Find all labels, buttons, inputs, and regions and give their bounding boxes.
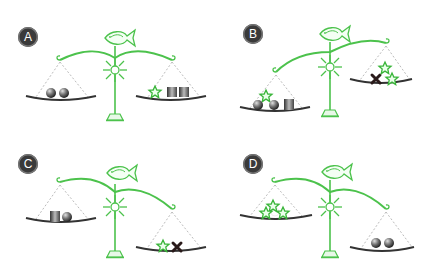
option-d[interactable]	[240, 164, 414, 258]
option-badge-d: D	[243, 154, 263, 174]
option-badge-c: C	[18, 154, 38, 174]
scales-illustration	[0, 0, 426, 276]
option-b[interactable]	[240, 26, 412, 117]
option-badge-b: B	[243, 24, 263, 44]
option-a[interactable]	[26, 30, 206, 121]
option-badge-a: A	[18, 27, 38, 47]
option-c[interactable]	[26, 165, 206, 258]
